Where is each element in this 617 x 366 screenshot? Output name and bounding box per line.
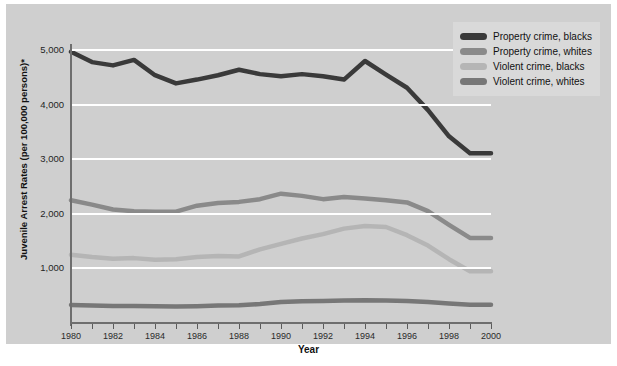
y-tick-label: 1,000	[20, 262, 64, 273]
x-axis-title: Year	[6, 344, 611, 355]
gridline	[71, 213, 491, 215]
x-tick-mark	[470, 324, 471, 329]
x-tick-mark	[218, 324, 219, 329]
x-tick-label: 1998	[439, 331, 459, 341]
x-tick-mark	[197, 324, 198, 329]
x-tick-mark	[239, 324, 240, 329]
y-axis-line	[70, 44, 72, 326]
legend-swatch-icon	[460, 48, 487, 55]
x-tick-label: 1984	[145, 331, 165, 341]
legend-item: Property crime, blacks	[460, 30, 592, 43]
legend-item: Property crime, whites	[460, 45, 592, 58]
series-line	[71, 226, 491, 271]
legend-label: Violent crime, blacks	[493, 61, 585, 72]
x-tick-mark	[491, 324, 492, 329]
x-tick-label: 1982	[103, 331, 123, 341]
x-tick-mark	[92, 324, 93, 329]
x-tick-mark	[428, 324, 429, 329]
plot-area	[71, 49, 491, 322]
x-tick-mark	[344, 324, 345, 329]
x-tick-mark	[386, 324, 387, 329]
x-tick-label: 2000	[481, 331, 501, 341]
x-tick-mark	[155, 324, 156, 329]
x-tick-mark	[365, 324, 366, 329]
chart-screenshot: Juvenile Arrest Rates (per 100,000 perso…	[0, 0, 617, 366]
x-tick-mark	[407, 324, 408, 329]
x-tick-mark	[302, 324, 303, 329]
y-tick-label: 5,000	[20, 44, 64, 55]
series-line	[71, 194, 491, 238]
x-tick-label: 1994	[355, 331, 375, 341]
gridline	[71, 49, 491, 51]
series-lines	[71, 49, 491, 322]
gridline	[71, 158, 491, 160]
x-tick-label: 1992	[313, 331, 333, 341]
legend-label: Property crime, whites	[493, 46, 592, 57]
x-tick-label: 1986	[187, 331, 207, 341]
y-tick-label: 3,000	[20, 153, 64, 164]
x-tick-label: 1988	[229, 331, 249, 341]
x-tick-mark	[113, 324, 114, 329]
series-line	[71, 52, 491, 154]
chart-panel: Juvenile Arrest Rates (per 100,000 perso…	[6, 4, 611, 344]
legend-swatch-icon	[460, 33, 487, 40]
chart-legend: Property crime, blacksProperty crime, wh…	[453, 22, 600, 96]
x-tick-label: 1996	[397, 331, 417, 341]
series-line	[71, 300, 491, 306]
x-tick-mark	[449, 324, 450, 329]
legend-item: Violent crime, blacks	[460, 60, 592, 73]
legend-swatch-icon	[460, 63, 487, 70]
legend-label: Property crime, blacks	[493, 31, 592, 42]
x-tick-mark	[176, 324, 177, 329]
legend-item: Violent crime, whites	[460, 75, 592, 88]
legend-label: Violent crime, whites	[493, 76, 585, 87]
x-tick-mark	[71, 324, 72, 329]
x-tick-mark	[323, 324, 324, 329]
x-tick-label: 1990	[271, 331, 291, 341]
y-tick-label: 2,000	[20, 207, 64, 218]
gridline	[71, 267, 491, 269]
x-tick-label: 1980	[61, 331, 81, 341]
x-tick-mark	[281, 324, 282, 329]
x-tick-mark	[260, 324, 261, 329]
legend-swatch-icon	[460, 78, 487, 85]
x-tick-mark	[134, 324, 135, 329]
gridline	[71, 104, 491, 106]
y-tick-label: 4,000	[20, 98, 64, 109]
